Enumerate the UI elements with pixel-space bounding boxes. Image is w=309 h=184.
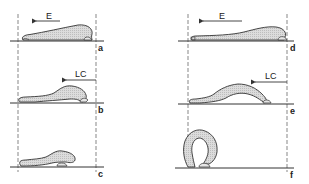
left-column	[10, 14, 104, 172]
body-shape	[191, 27, 285, 40]
panel-label-e: e	[290, 107, 295, 116]
right-column	[175, 14, 294, 172]
posterior-sucker	[263, 100, 271, 103]
panel-label-a: a	[98, 44, 103, 53]
panel-d	[178, 21, 294, 41]
panel-label-b: b	[98, 106, 104, 115]
body-loop-shape	[184, 130, 218, 167]
arrow-label-lc-right: LC	[265, 72, 277, 81]
panel-e	[178, 82, 294, 104]
arrow-label-lc-left: LC	[75, 70, 87, 79]
panel-label-c: c	[98, 170, 103, 179]
body-shape	[22, 25, 92, 40]
panel-c	[10, 151, 104, 167]
panel-label-d: d	[290, 44, 296, 53]
body-shape	[19, 86, 86, 102]
panel-f	[175, 130, 294, 168]
panel-b	[10, 80, 104, 103]
posterior-sucker	[57, 163, 67, 166]
panel-a	[10, 21, 104, 41]
panel-label-f: f	[290, 171, 293, 180]
body-shape	[20, 151, 76, 166]
arrow-label-e-right: E	[219, 12, 225, 21]
locomotion-diagram	[0, 0, 309, 184]
body-shape	[189, 84, 266, 103]
posterior-sucker	[278, 37, 287, 40]
arrow-label-e-left: E	[46, 12, 52, 21]
